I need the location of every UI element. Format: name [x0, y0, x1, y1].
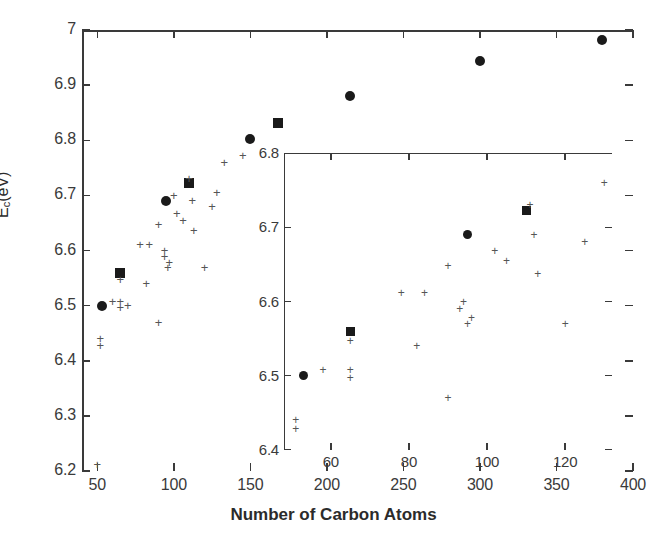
inset-axis-bottom [284, 153, 612, 154]
x-tick-label: 60 [306, 453, 356, 470]
data-point-plus: + [161, 261, 174, 274]
x-tick-label: 50 [67, 476, 127, 494]
x-tick-label: 150 [220, 476, 280, 494]
inset-background [285, 154, 611, 449]
x-tick-label: 300 [450, 476, 510, 494]
x-tick-label: 200 [297, 476, 357, 494]
data-point-plus: + [163, 256, 176, 269]
y-tick-label: 6.5 [30, 296, 76, 314]
data-point-plus: + [106, 295, 119, 308]
y-tick-label: 6.4 [30, 351, 76, 369]
y-tick-mark [625, 195, 633, 197]
data-point-square [184, 178, 194, 188]
data-point-plus: + [114, 301, 127, 314]
y-tick-label: 7 [30, 20, 76, 38]
y-tick-label: 6.7 [30, 185, 76, 203]
y-tick-mark [625, 360, 633, 362]
data-point-plus: + [91, 458, 104, 471]
y-tick-mark [625, 84, 633, 86]
main-axis-right [82, 30, 84, 471]
x-tick-label: 100 [144, 476, 204, 494]
data-point-plus: + [158, 250, 171, 263]
data-point-plus: + [94, 339, 107, 352]
x-tick-mark [250, 463, 252, 471]
x-tick-label: 250 [373, 476, 433, 494]
data-point-square [273, 118, 283, 128]
y-tick-label: 6.9 [30, 75, 76, 93]
figure-canvas: ++++++++++++++++++++++++++++ 6.26.36.46.… [0, 0, 667, 539]
x-tick-mark [97, 463, 99, 471]
data-point-plus: + [114, 273, 127, 286]
data-point-plus: + [177, 214, 190, 227]
y-tick-label: 6.7 [237, 218, 279, 235]
data-point-plus: + [152, 316, 165, 329]
x-tick-label: 100 [462, 453, 512, 470]
x-tick-label: 120 [540, 453, 590, 470]
data-point-plus: + [121, 299, 134, 312]
x-tick-label: 80 [384, 453, 434, 470]
data-point-plus: + [186, 194, 199, 207]
data-point-circle [97, 301, 107, 311]
y-tick-label: 6.4 [237, 441, 279, 458]
y-axis-label-base: E [0, 207, 11, 218]
inset-axis-right [284, 153, 285, 450]
y-tick-label: 6.6 [30, 241, 76, 259]
y-tick-label: 6.5 [237, 367, 279, 384]
x-tick-mark [173, 463, 175, 471]
y-tick-mark [625, 305, 633, 307]
y-tick-label: 6.6 [237, 293, 279, 310]
x-tick-label: 400 [603, 476, 663, 494]
y-tick-mark [625, 415, 633, 417]
y-tick-label: 6.3 [30, 406, 76, 424]
y-tick-mark [605, 449, 612, 450]
data-point-circle [475, 56, 485, 66]
data-point-plus: + [206, 200, 219, 213]
main-axis-bottom [82, 30, 633, 32]
data-point-plus: + [183, 172, 196, 185]
data-point-circle [597, 35, 607, 45]
y-tick-mark [625, 250, 633, 252]
data-point-plus: + [114, 295, 127, 308]
data-point-circle [245, 134, 255, 144]
data-point-plus: + [198, 261, 211, 274]
data-point-plus: + [187, 224, 200, 237]
data-point-plus: + [143, 238, 156, 251]
y-tick-label: 6.8 [237, 144, 279, 161]
data-point-plus: + [134, 238, 147, 251]
data-point-square [115, 268, 125, 278]
data-point-plus: + [210, 186, 223, 199]
y-axis-label: Ec(eV) [0, 172, 12, 218]
data-point-plus: + [158, 244, 171, 257]
x-tick-label: 350 [526, 476, 586, 494]
y-tick-mark [625, 140, 633, 142]
data-point-plus: + [167, 189, 180, 202]
y-tick-mark [625, 470, 633, 472]
data-point-plus: + [170, 207, 183, 220]
data-point-plus: + [152, 218, 165, 231]
x-tick-mark [632, 463, 634, 471]
data-point-plus: + [94, 332, 107, 345]
y-axis-label-subscript: c [0, 202, 12, 208]
inset-plot-area: +++++++++++++++++++++++ [284, 153, 612, 450]
x-axis-label: Number of Carbon Atoms [0, 505, 667, 525]
data-point-circle [161, 196, 171, 206]
y-tick-label: 6.8 [30, 130, 76, 148]
data-point-plus: + [218, 156, 231, 169]
data-point-circle [345, 91, 355, 101]
data-point-plus: + [140, 277, 153, 290]
y-axis-label-unit: (eV) [0, 172, 11, 202]
